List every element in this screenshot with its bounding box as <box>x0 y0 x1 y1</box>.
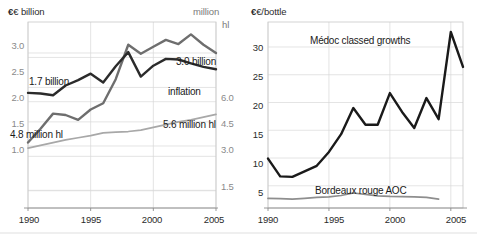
left-chart-label-inflation: inflation <box>168 86 201 97</box>
left-chart-ytick-1.5: 1.5 <box>0 118 24 129</box>
left-chart-label-volume-end: 5.6 million hl <box>163 119 216 130</box>
left-chart-ytick-right-6.0: 6.0 <box>221 92 234 103</box>
left-chart-ytick-right-4.5: 4.5 <box>221 118 234 129</box>
left-chart-ytick-right-3.0: 3.0 <box>221 144 234 155</box>
right-chart-ytick-30: 30 <box>241 42 263 53</box>
dual-chart-figure: €€ billion million hl 3.0 2.5 2.0 1.5 1.… <box>0 0 477 237</box>
right-chart-xtick-1990: 1990 <box>247 214 289 225</box>
right-chart-xtick-2005: 2005 <box>435 214 477 225</box>
chart-panel-bottle-prices: €€/bottle 30 25 20 15 10 5 1990 1995 200… <box>237 0 477 237</box>
right-chart-ytick-20: 20 <box>241 100 263 111</box>
right-chart-ytick-25: 25 <box>241 71 263 82</box>
right-chart-label-medoc: Médoc classed growths <box>310 35 410 46</box>
left-chart-xtick-1990: 1990 <box>8 214 50 225</box>
left-chart-label-turnover-end: 3.0 billion <box>176 56 216 67</box>
left-chart-xtick-1995: 1995 <box>70 214 112 225</box>
right-chart-ytick-15: 15 <box>241 129 263 140</box>
right-chart-label-bordeaux: Bordeaux rouge AOC <box>315 185 406 196</box>
left-chart-ytick-2.0: 2.0 <box>0 92 24 103</box>
right-chart-ytick-5: 5 <box>241 187 263 198</box>
left-chart-xtick-2005: 2005 <box>193 214 235 225</box>
left-chart-ytick-3.0: 3.0 <box>0 40 24 51</box>
chart-panel-production-value: €€ billion million hl 3.0 2.5 2.0 1.5 1.… <box>0 0 237 237</box>
left-chart-ytick-1.0: 1.0 <box>0 144 24 155</box>
left-chart-ytick-2.5: 2.5 <box>0 66 24 77</box>
bottom-rule <box>0 232 477 234</box>
left-chart-label-turnover-start: 1.7 billion <box>29 76 69 87</box>
right-chart-ytick-10: 10 <box>241 158 263 169</box>
left-chart-ytick-right-1.5: 1.5 <box>221 181 234 192</box>
left-chart-label-volume-start: 4.8 million hl <box>10 129 63 140</box>
right-chart-xtick-1995: 1995 <box>313 214 355 225</box>
left-chart-xtick-2000: 2000 <box>131 214 173 225</box>
right-chart-xtick-2000: 2000 <box>374 214 416 225</box>
